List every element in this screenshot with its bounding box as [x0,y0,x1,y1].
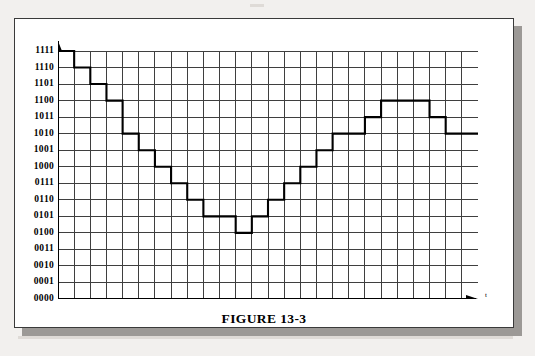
y-axis-tick-0001: 0001 [14,277,54,287]
scan-artifact [18,336,513,339]
y-axis-tick-0110: 0110 [14,195,54,205]
figure-screenshot: 1111111011011100101110101001100001110110… [0,0,535,356]
y-axis-tick-0010: 0010 [14,261,54,271]
y-axis-tick-1010: 1010 [14,129,54,139]
figure-page-card: 1111111011011100101110101001100001110110… [14,18,514,328]
y-axis-tick-0000: 0000 [14,294,54,304]
quantized-waveform-chart [58,41,478,299]
x-axis-label: t [485,291,487,299]
y-axis-tick-0100: 0100 [14,228,54,238]
y-axis-tick-0101: 0101 [14,211,54,221]
y-axis-tick-1001: 1001 [14,145,54,155]
y-axis-tick-1110: 1110 [14,63,54,73]
y-axis-tick-0111: 0111 [14,178,54,188]
y-axis-tick-1101: 1101 [14,79,54,89]
y-axis-tick-1000: 1000 [14,162,54,172]
scan-artifact [250,4,264,7]
figure-caption: FIGURE 13-3 [15,311,513,327]
y-axis-tick-1100: 1100 [14,96,54,106]
y-axis-tick-0011: 0011 [14,244,54,254]
y-axis-tick-1111: 1111 [14,46,54,56]
y-axis-tick-1011: 1011 [14,112,54,122]
waveform-plot: 1111111011011100101110101001100001110110… [58,41,478,299]
